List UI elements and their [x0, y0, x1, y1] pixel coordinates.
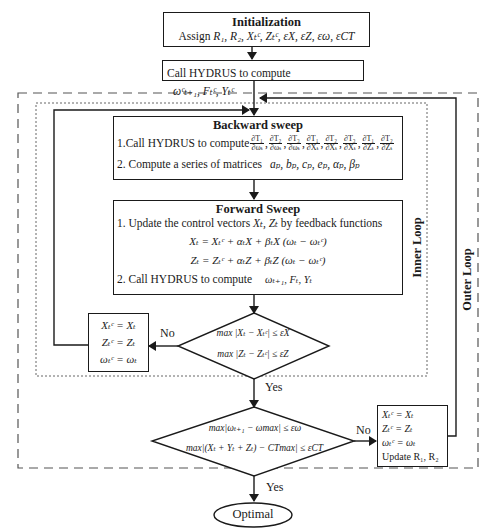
outer-update-x: Xₜᶜ = Xₜ	[382, 408, 443, 422]
derivative-6: ∂T₁∂Zₜ	[362, 135, 376, 152]
inner-update-z: Zₜᶜ = Zₜ	[91, 334, 146, 351]
assign-label: Assign	[179, 30, 211, 42]
inner-condition-x: max |Xₜ − Xₜᶜ| ≤ εX	[198, 327, 308, 338]
initialization-box: Initialization Assign R₁, R₂, Xₜᶜ, Zₜᶜ, …	[163, 12, 370, 47]
forward-eq-z: Zₜ = Zₜᶜ + αₜZ + βₜZ (ωₜ − ωₜᶜ)	[117, 253, 399, 267]
call-hydrus-initial-box: Call HYDRUS to compute ωᶜₜ₊₁, Fₜᶜ, Yₜᶜ	[162, 60, 364, 81]
outer-update-box: Xₜᶜ = Xₜ Zₜᶜ = Zₜ ωₜᶜ = ωₜ Update R₁, R₂	[377, 405, 448, 467]
call-hydrus-initial-text: Call HYDRUS to compute	[167, 67, 291, 79]
backward-sweep-title: Backward sweep	[117, 118, 399, 132]
backward-matrices: aₚ, bₚ, cₚ, eₚ, αₚ, βₚ	[270, 158, 360, 170]
outer-update-r: Update R₁, R₂	[382, 450, 443, 464]
outer-condition-omega: max|ωₜ₊₁ − ωmax| ≤ εω	[185, 422, 325, 433]
outer-no-label: No	[356, 423, 371, 438]
inner-yes-label: Yes	[265, 380, 282, 395]
outer-update-z: Zₜᶜ = Zₜ	[382, 422, 443, 436]
backward-sweep-box: Backward sweep 1.Call HYDRUS to compute …	[113, 116, 403, 180]
assign-items: R₁, R₂, Xₜᶜ, Zₜᶜ, εX, εZ, εω, εCT	[213, 30, 354, 42]
forward-step2: 2. Call HYDRUS to compute	[117, 273, 252, 285]
forward-eq-x: Xₜ = Xₜᶜ + αₜX + βₜX (ωₜ − ωₜᶜ)	[117, 234, 399, 248]
backward-step2: 2. Compute a series of matrices	[117, 158, 262, 170]
outer-condition-ct: max|(Xₜ + Yₜ + Zₜ) − CTmax| ≤ εCT	[172, 442, 337, 453]
inner-condition-z: max |Zₜ − Zₜᶜ| ≤ εZ	[198, 348, 308, 359]
inner-update-omega: ωₜᶜ = ωₜ	[91, 351, 146, 368]
derivative-0: ∂T₁∂ωₜ	[250, 135, 264, 152]
derivative-7: ∂T₂∂Zₜ	[380, 135, 394, 152]
initialization-title: Initialization	[164, 15, 369, 29]
forward-sweep-box: Forward Sweep 1. Update the control vect…	[113, 200, 403, 295]
outer-yes-label: Yes	[266, 480, 283, 495]
derivative-1: ∂T₂∂ωₜ	[269, 135, 283, 152]
optimal-label: Optimal	[214, 507, 292, 522]
derivative-4: ∂T₂∂Xₜ	[324, 135, 338, 152]
forward-step1-suffix: by feedback functions	[281, 217, 383, 229]
inner-loop-label: Inner Loop	[410, 213, 425, 283]
inner-decision-diamond	[178, 313, 329, 379]
inner-no-label: No	[160, 326, 175, 341]
derivative-3: ∂T₁∂Xₜ	[306, 135, 320, 152]
call-hydrus-initial-outputs: ωᶜₜ₊₁, Fₜᶜ, Yₜᶜ	[173, 85, 234, 97]
backward-step1: 1.Call HYDRUS to compute	[117, 136, 249, 150]
inner-update-box: Xₜᶜ = Xₜ Zₜᶜ = Zₜ ωₜᶜ = ωₜ	[88, 313, 149, 372]
forward-step2-outputs: ωₜ₊₁, Fₜ, Yₜ	[265, 274, 312, 285]
derivative-2: ∂T₃∂ωₜ	[287, 135, 301, 152]
outer-update-omega: ωₜᶜ = ωₜ	[382, 436, 443, 450]
forward-step1-prefix: 1. Update the control vectors	[117, 217, 250, 229]
forward-sweep-title: Forward Sweep	[117, 202, 399, 216]
forward-step1-vars: Xₜ, Zₜ	[253, 217, 278, 229]
outer-loop-label: Outer Loop	[460, 245, 475, 315]
derivative-5: ∂T₃∂Xₜ	[343, 135, 357, 152]
inner-update-x: Xₜᶜ = Xₜ	[91, 317, 146, 334]
